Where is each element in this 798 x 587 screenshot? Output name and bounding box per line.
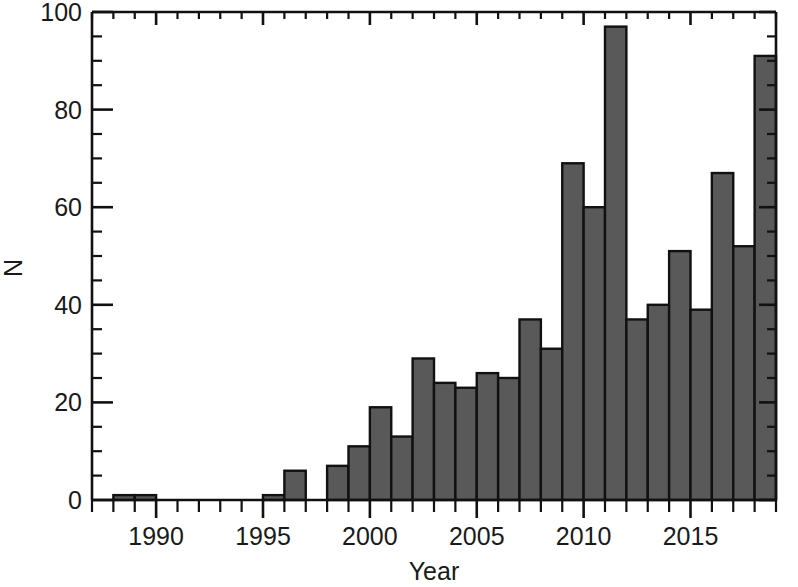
y-tick-label: 40: [54, 291, 82, 319]
histogram-bar: [669, 251, 690, 500]
histogram-bar: [648, 305, 669, 500]
y-tick-labels: 020406080100: [40, 0, 82, 514]
y-tick-label: 80: [54, 96, 82, 124]
histogram-bar: [370, 407, 391, 500]
histogram-bar: [498, 378, 519, 500]
histogram-bar: [455, 388, 476, 500]
x-tick-label: 1995: [235, 522, 291, 550]
x-tick-labels: 199019952000200520102015: [128, 522, 718, 550]
x-axis-title: Year: [409, 557, 460, 585]
histogram-bar: [349, 446, 370, 500]
y-axis-title: N: [0, 259, 27, 277]
histogram-bar: [626, 319, 647, 500]
x-tick-label: 2010: [556, 522, 612, 550]
x-tick-label: 1990: [128, 522, 184, 550]
x-tick-label: 2015: [663, 522, 719, 550]
y-tick-label: 0: [68, 486, 82, 514]
chart-figure: 199019952000200520102015 020406080100 Ye…: [0, 0, 798, 587]
y-tick-label: 20: [54, 388, 82, 416]
y-tick-label: 100: [40, 0, 82, 26]
x-tick-label: 2000: [342, 522, 398, 550]
histogram-bar: [562, 163, 583, 500]
histogram-bar: [391, 437, 412, 500]
histogram-bar: [327, 466, 348, 500]
histogram-bar: [605, 27, 626, 500]
histogram-bar: [691, 310, 712, 500]
y-tick-label: 60: [54, 193, 82, 221]
histogram-bar: [733, 246, 754, 500]
histogram-bar: [755, 56, 776, 500]
histogram-bar: [520, 319, 541, 500]
histogram-bar: [413, 358, 434, 500]
histogram-bar: [434, 383, 455, 500]
histogram-bar: [712, 173, 733, 500]
histogram-bar: [541, 349, 562, 500]
histogram-bar: [477, 373, 498, 500]
histogram-bar: [584, 207, 605, 500]
x-tick-label: 2005: [449, 522, 505, 550]
histogram-bar: [284, 471, 305, 500]
histogram-plot: 199019952000200520102015 020406080100 Ye…: [0, 0, 798, 587]
